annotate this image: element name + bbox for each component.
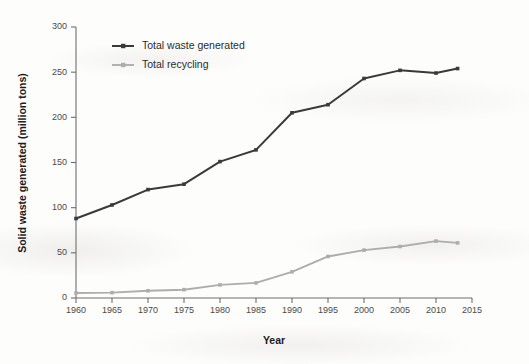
x-tick-group: 1960196519701975198019851990199520002005…	[66, 298, 482, 315]
x-tick-label: 1975	[174, 305, 194, 315]
series-line-1	[76, 69, 458, 219]
legend-label: Total waste generated	[142, 39, 245, 51]
legend-label: Total recycling	[142, 58, 209, 70]
y-tick-label: 50	[57, 247, 67, 257]
data-series-group	[74, 67, 459, 295]
x-tick-label: 1965	[102, 305, 122, 315]
y-tick-label: 300	[52, 21, 67, 31]
x-tick-label: 1985	[246, 305, 266, 315]
x-tick-label: 2010	[426, 305, 446, 315]
y-axis-title: Solid waste generated (million tons)	[16, 73, 28, 253]
x-tick-label: 2000	[354, 305, 374, 315]
x-tick-label: 2015	[462, 305, 482, 315]
x-tick-label: 1970	[138, 305, 158, 315]
x-tick-label: 1990	[282, 305, 302, 315]
x-tick-label: 1995	[318, 305, 338, 315]
y-tick-label: 100	[52, 202, 67, 212]
y-tick-label: 150	[52, 157, 67, 167]
y-tick-label: 250	[52, 67, 67, 77]
x-axis-title: Year	[263, 334, 285, 346]
x-tick-label: 1980	[210, 305, 230, 315]
series-line-2	[76, 241, 458, 293]
line-chart: 050100150200250300 196019651970197519801…	[0, 0, 529, 364]
y-tick-group: 050100150200250300	[52, 21, 76, 302]
chart-canvas: 050100150200250300 196019651970197519801…	[0, 0, 529, 364]
chart-legend: Total waste generatedTotal recycling	[112, 39, 245, 70]
x-tick-label: 1960	[66, 305, 86, 315]
y-tick-label: 0	[62, 292, 67, 302]
series-2	[74, 239, 459, 294]
legend-item-2: Total recycling	[112, 58, 209, 70]
x-tick-label: 2005	[390, 305, 410, 315]
y-tick-label: 200	[52, 112, 67, 122]
legend-item-1: Total waste generated	[112, 39, 245, 51]
series-1	[74, 67, 459, 221]
